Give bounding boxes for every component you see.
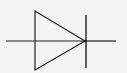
junction-dot — [84, 40, 87, 43]
diode-diagram — [0, 0, 127, 73]
